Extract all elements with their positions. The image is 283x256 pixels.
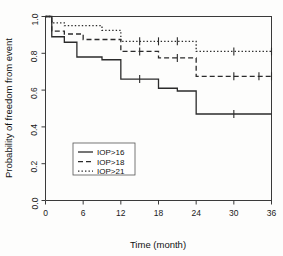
x-tick-label: 30 [229, 208, 239, 218]
legend-label-IOP21: IOP>21 [97, 167, 125, 176]
x-tick-label: 24 [191, 208, 201, 218]
x-axis-ticks: 061218243036 [43, 201, 276, 218]
y-tick-label: 1.0 [30, 13, 40, 25]
censor-marks [140, 37, 272, 118]
y-axis-title: Probability of freedom from event [3, 38, 14, 178]
x-tick-label: 18 [154, 208, 164, 218]
plot-canvas: 0.00.20.40.60.81.0 061218243036 Time (mo… [0, 0, 283, 256]
legend-label-IOP18: IOP>18 [97, 158, 125, 167]
km-curve-IOP16 [46, 17, 272, 115]
y-tick-label: 0.4 [30, 124, 40, 136]
chart-legend[interactable]: IOP>16IOP>18IOP>21 [73, 143, 135, 176]
x-axis-title: Time (month) [130, 239, 186, 250]
y-tick-label: 0.6 [30, 87, 40, 99]
x-tick-label: 12 [116, 208, 126, 218]
y-tick-label: 0.2 [30, 161, 40, 173]
legend-label-IOP16: IOP>16 [97, 148, 125, 157]
y-axis-ticks: 0.00.20.40.60.81.0 [30, 13, 46, 209]
km-curves [46, 17, 272, 115]
x-tick-label: 0 [43, 208, 48, 218]
y-tick-label: 0.0 [30, 197, 40, 209]
kaplan-meier-figure: 0.00.20.40.60.81.0 061218243036 Time (mo… [0, 0, 283, 256]
y-tick-label: 0.8 [30, 50, 40, 62]
x-tick-label: 36 [267, 208, 277, 218]
x-tick-label: 6 [81, 208, 86, 218]
